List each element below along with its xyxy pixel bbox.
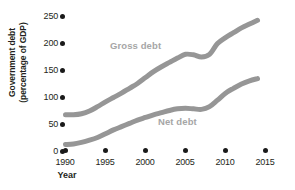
debt-chart: Government debt (percentage of GDP) 250 … bbox=[0, 0, 295, 190]
series-label-net-debt: Net debt bbox=[158, 116, 197, 127]
x-tick-dot-2010 bbox=[223, 148, 228, 153]
x-tick-label-2005: 2005 bbox=[165, 157, 205, 167]
x-tick-label-2015: 2015 bbox=[245, 157, 285, 167]
x-tick-label-1995: 1995 bbox=[85, 157, 125, 167]
x-tick-label-1990: 1990 bbox=[45, 157, 85, 167]
x-tick-dot-2015 bbox=[263, 148, 268, 153]
series-line-gross-debt bbox=[66, 20, 258, 115]
x-tick-dot-2000 bbox=[143, 148, 148, 153]
x-tick-dot-1995 bbox=[103, 148, 108, 153]
x-tick-label-2010: 2010 bbox=[205, 157, 245, 167]
series-line-net-debt bbox=[66, 79, 258, 145]
x-tick-dot-1990 bbox=[63, 148, 68, 153]
x-axis-title: Year bbox=[45, 170, 89, 180]
series-label-gross-debt: Gross debt bbox=[110, 40, 161, 51]
x-tick-dot-2005 bbox=[183, 148, 188, 153]
x-tick-label-2000: 2000 bbox=[125, 157, 165, 167]
